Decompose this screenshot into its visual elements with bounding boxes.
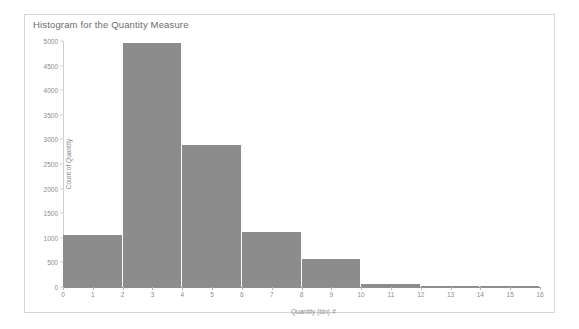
- x-tick-mark: [212, 287, 213, 290]
- x-tick-mark: [540, 287, 541, 290]
- x-tick-mark: [123, 287, 124, 290]
- x-tick-label: 0: [61, 291, 65, 298]
- x-tick-label: 5: [210, 291, 214, 298]
- x-tick-mark: [152, 287, 153, 290]
- histogram-bar[interactable]: [182, 145, 242, 287]
- y-tick-mark: [60, 41, 63, 42]
- x-tick-label: 12: [417, 291, 424, 298]
- histogram-bar[interactable]: [123, 43, 183, 287]
- y-tick-mark: [60, 90, 63, 91]
- x-tick-mark: [421, 287, 422, 290]
- x-tick-label: 11: [388, 291, 395, 298]
- y-tick-mark: [60, 65, 63, 66]
- x-tick-mark: [302, 287, 303, 290]
- x-tick-mark: [272, 287, 273, 290]
- worksheet-frame: Histogram for the Quantity Measure Count…: [24, 14, 555, 313]
- x-axis-title-label: Quantity (bin): [291, 308, 330, 315]
- x-tick-mark: [510, 287, 511, 290]
- y-tick-mark: [60, 164, 63, 165]
- histogram-bar[interactable]: [361, 284, 421, 287]
- x-tick-mark: [242, 287, 243, 290]
- x-tick-mark: [63, 287, 64, 290]
- x-tick-label: 4: [180, 291, 184, 298]
- x-tick-label: 14: [477, 291, 484, 298]
- y-tick-mark: [60, 114, 63, 115]
- histogram-bar[interactable]: [63, 235, 123, 287]
- x-tick-mark: [182, 287, 183, 290]
- plot-area: 0500100015002000250030003500400045005000…: [63, 41, 540, 287]
- x-tick-mark: [331, 287, 332, 290]
- y-tick-mark: [60, 213, 63, 214]
- x-tick-mark: [451, 287, 452, 290]
- histogram-bar[interactable]: [480, 286, 540, 287]
- x-tick-label: 10: [358, 291, 365, 298]
- histogram-bar[interactable]: [302, 259, 362, 287]
- x-tick-mark: [480, 287, 481, 290]
- x-tick-label: 13: [447, 291, 454, 298]
- x-tick-mark: [361, 287, 362, 290]
- histogram-bar[interactable]: [242, 232, 302, 287]
- chart-title: Histogram for the Quantity Measure: [33, 19, 189, 30]
- x-tick-label: 7: [270, 291, 274, 298]
- x-axis-title: Quantity (bin)#: [291, 308, 336, 315]
- y-tick-mark: [60, 139, 63, 140]
- number-field-icon: #: [332, 308, 336, 315]
- x-tick-label: 3: [151, 291, 155, 298]
- x-tick-mark: [93, 287, 94, 290]
- histogram-bar[interactable]: [421, 286, 481, 287]
- x-tick-mark: [391, 287, 392, 290]
- x-tick-label: 6: [240, 291, 244, 298]
- x-tick-label: 15: [507, 291, 514, 298]
- x-tick-label: 8: [300, 291, 304, 298]
- y-tick-mark: [60, 188, 63, 189]
- x-tick-label: 1: [91, 291, 95, 298]
- x-tick-label: 2: [121, 291, 125, 298]
- x-tick-label: 9: [330, 291, 334, 298]
- x-tick-label: 16: [536, 291, 543, 298]
